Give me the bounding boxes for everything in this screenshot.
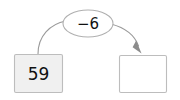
- diagram-canvas: 59 −6: [0, 0, 180, 100]
- arrow-curve-right: [111, 24, 139, 46]
- number-machine-diagram: 59 −6: [0, 0, 180, 100]
- operation-label: −6: [77, 15, 99, 33]
- input-box-value: 59: [28, 64, 50, 84]
- output-box[interactable]: [120, 56, 167, 93]
- arrow-curve-left: [38, 21, 66, 54]
